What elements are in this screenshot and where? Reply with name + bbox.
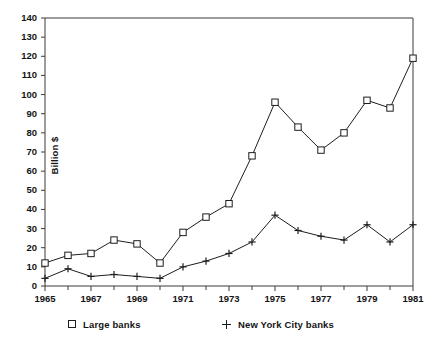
legend-item-label: Large banks [83,319,141,330]
series-large-banks [42,55,416,266]
plot-area [0,0,433,339]
legend-item-new-york-city-banks: New York City banks [222,316,334,332]
data-point-marker [42,260,48,266]
data-point-marker [387,105,393,111]
data-point-marker [111,237,117,243]
data-point-marker [295,124,301,130]
y-axis-ticks [41,18,45,286]
data-point-marker [203,214,209,220]
data-point-marker [364,97,370,103]
legend-item-label: New York City banks [238,319,334,330]
data-point-marker [134,241,140,247]
data-point-marker [65,252,71,258]
chart-legend: Large banks New York City banks [0,316,433,336]
plot-frame [45,18,413,286]
series-new-york-city-banks [41,212,416,282]
series-line [45,58,413,263]
series-line [45,215,413,278]
data-point-marker [88,250,94,256]
plus-marker-icon [222,320,231,329]
data-point-marker [249,153,255,159]
data-point-marker [410,55,416,61]
square-marker-icon [68,320,76,328]
legend-item-large-banks: Large banks [68,316,141,332]
chart-figure: Billion $ 010203040506070809010011012013… [0,0,433,339]
data-point-marker [318,147,324,153]
data-point-marker [272,99,278,105]
data-point-marker [226,200,232,206]
data-point-marker [341,130,347,136]
data-series-layer [41,55,416,282]
data-point-marker [180,229,186,235]
data-point-marker [157,260,163,266]
x-axis-ticks [45,286,413,291]
